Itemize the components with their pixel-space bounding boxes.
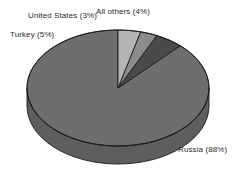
pie-label-united-states: United States (3%) bbox=[28, 11, 97, 20]
pie-label-turkey: Turkey (5%) bbox=[10, 30, 54, 39]
pie-top-face bbox=[27, 30, 209, 146]
pie-label-all-others: All others (4%) bbox=[96, 7, 150, 16]
pie-chart-figure: Turkey (5%) United States (3%) All other… bbox=[0, 0, 244, 169]
pie-label-russia: Russia (88%) bbox=[178, 145, 227, 154]
pie-chart-graphic bbox=[0, 0, 244, 169]
